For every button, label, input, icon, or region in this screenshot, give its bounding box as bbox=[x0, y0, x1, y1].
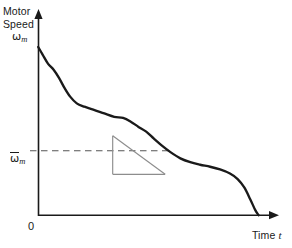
omega-subscript: m bbox=[21, 34, 27, 44]
omega-bar-subscript: m bbox=[19, 156, 25, 166]
origin-label: 0 bbox=[28, 220, 34, 233]
omega-bar-glyph: ω bbox=[10, 152, 19, 164]
motor-speed-figure: Motor Speed ωm ωm 0 Time t bbox=[0, 0, 292, 248]
y-axis-average-speed-label: ωm bbox=[10, 152, 25, 168]
x-axis bbox=[38, 211, 279, 219]
x-axis-title-word: Time bbox=[252, 229, 275, 241]
motor-speed-decay-curve bbox=[38, 47, 258, 215]
plot-canvas bbox=[0, 0, 292, 248]
x-axis-title: Time t bbox=[252, 229, 282, 242]
y-axis-title-line1: Motor bbox=[3, 5, 34, 18]
y-axis-title-line2: Speed bbox=[3, 18, 34, 31]
omega-glyph: ω bbox=[12, 30, 21, 43]
y-axis-peak-speed-label: ωm bbox=[12, 30, 27, 46]
y-axis bbox=[34, 9, 42, 216]
x-axis-variable-glyph: t bbox=[278, 229, 281, 241]
y-axis-title: Motor Speed bbox=[3, 5, 34, 30]
